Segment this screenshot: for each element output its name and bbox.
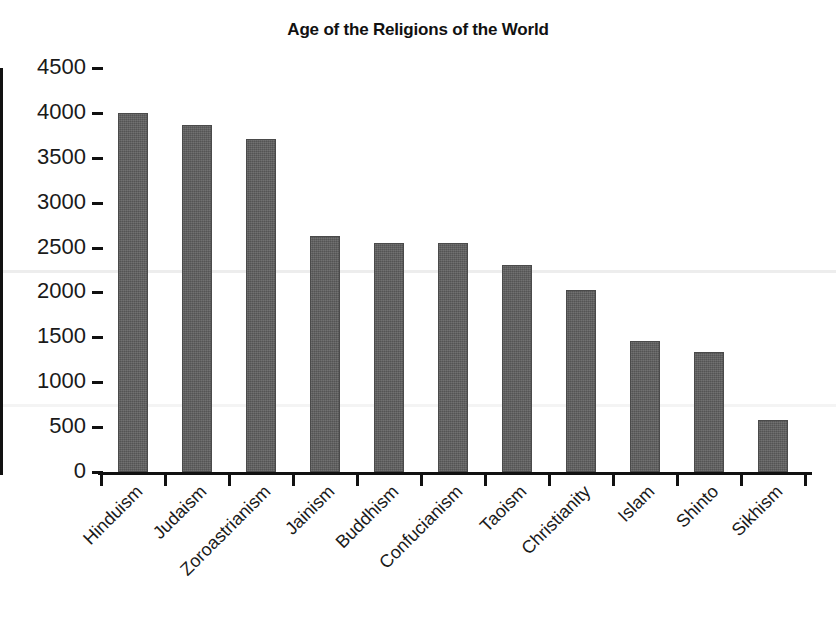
x-axis-category-labels: HinduismJudaismZoroastrianismJainismBudd… [0,0,836,625]
bar-chart: Age of the Religions of the World 050010… [0,0,836,625]
